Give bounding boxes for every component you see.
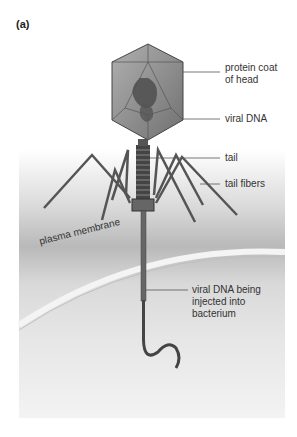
label-viral-dna: viral DNA — [225, 113, 267, 125]
injected-dna — [144, 300, 180, 368]
tail-sheath — [136, 145, 150, 200]
label-tail: tail — [225, 152, 238, 164]
label-tail-fibers: tail fibers — [225, 178, 265, 190]
label-injected-dna: viral DNA being injected into bacterium — [192, 284, 261, 320]
label-protein-coat: protein coat of head — [225, 62, 277, 86]
tail-core — [141, 211, 146, 301]
